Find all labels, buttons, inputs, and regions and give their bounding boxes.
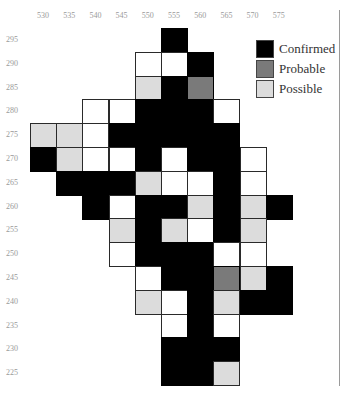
grid-cell-confirmed (213, 123, 240, 148)
grid-cell-confirmed (266, 290, 293, 315)
grid-cell-confirmed (161, 123, 188, 148)
y-axis-label: 295 (6, 35, 26, 44)
grid-cell-possible (135, 76, 162, 101)
grid-cell-confirmed (187, 52, 214, 77)
page-divider-line (339, 10, 340, 386)
x-axis-label: 560 (187, 11, 213, 20)
grid-cell-surveyed (213, 99, 240, 124)
grid-cell-confirmed (135, 242, 162, 267)
legend-label-probable: Probable (279, 60, 325, 78)
grid-cell-possible (135, 290, 162, 315)
grid-cell-surveyed (161, 147, 188, 172)
grid-cell-confirmed (213, 337, 240, 362)
x-axis-label: 550 (135, 11, 161, 20)
grid-cell-confirmed (161, 195, 188, 220)
grid-cell-surveyed (109, 242, 136, 267)
grid-cell-confirmed (187, 314, 214, 339)
grid-cell-surveyed (82, 147, 109, 172)
grid-cell-confirmed (135, 218, 162, 243)
grid-cell-confirmed (161, 76, 188, 101)
grid-cell-possible (240, 218, 267, 243)
grid-cell-possible (56, 147, 83, 172)
grid-cell-confirmed (30, 147, 57, 172)
legend-label-possible: Possible (279, 80, 322, 98)
grid-cell-confirmed (161, 99, 188, 124)
grid-cell-confirmed (56, 171, 83, 196)
grid-cell-surveyed (161, 52, 188, 77)
grid-cell-confirmed (135, 195, 162, 220)
x-axis-label: 545 (109, 11, 135, 20)
grid-cell-probable (187, 76, 214, 101)
grid-cell-possible (213, 361, 240, 386)
grid-cell-confirmed (161, 28, 188, 53)
grid-cell-confirmed (187, 266, 214, 291)
grid-cell-confirmed (266, 266, 293, 291)
grid-cell-surveyed (240, 147, 267, 172)
grid-cell-possible (56, 123, 83, 148)
grid-cell-surveyed (213, 242, 240, 267)
grid-cell-confirmed (213, 218, 240, 243)
grid-cell-surveyed (109, 195, 136, 220)
grid-cell-surveyed (240, 242, 267, 267)
grid-cell-confirmed (187, 242, 214, 267)
grid-cell-surveyed (161, 290, 188, 315)
grid-cell-confirmed (161, 337, 188, 362)
grid-cell-surveyed (187, 171, 214, 196)
grid-cell-confirmed (240, 290, 267, 315)
grid-cell-confirmed (135, 99, 162, 124)
y-axis-label: 265 (6, 178, 26, 187)
grid-cell-possible (109, 218, 136, 243)
x-axis-label: 570 (240, 11, 266, 20)
grid-cell-possible (161, 218, 188, 243)
x-axis-label: 565 (213, 11, 239, 20)
y-axis-label: 285 (6, 83, 26, 92)
y-axis-label: 225 (6, 368, 26, 377)
grid-cell-confirmed (82, 195, 109, 220)
grid-cell-confirmed (135, 147, 162, 172)
grid-cell-surveyed (109, 147, 136, 172)
grid-cell-possible (213, 290, 240, 315)
grid-cell-possible (240, 195, 267, 220)
grid-cell-surveyed (135, 266, 162, 291)
grid-cell-confirmed (161, 361, 188, 386)
legend-swatch-confirmed (256, 40, 274, 58)
breeding-atlas-grid-map: 530535540545550555560565570575 295290285… (0, 0, 344, 396)
grid-cell-confirmed (213, 171, 240, 196)
grid-cell-possible (30, 123, 57, 148)
grid-cell-confirmed (187, 99, 214, 124)
grid-cell-confirmed (213, 147, 240, 172)
grid-cell-surveyed (82, 99, 109, 124)
grid-cell-confirmed (161, 242, 188, 267)
grid-cell-confirmed (82, 171, 109, 196)
grid-cell-confirmed (266, 195, 293, 220)
grid-cell-confirmed (213, 195, 240, 220)
x-axis-label: 530 (30, 11, 56, 20)
y-axis-label: 240 (6, 297, 26, 306)
grid-cell-surveyed (161, 314, 188, 339)
grid-cell-confirmed (187, 147, 214, 172)
grid-cell-surveyed (161, 171, 188, 196)
grid-cell-possible (135, 171, 162, 196)
x-axis-label: 575 (266, 11, 292, 20)
grid-cell-confirmed (135, 123, 162, 148)
y-axis-label: 235 (6, 321, 26, 330)
grid-cell-probable (213, 266, 240, 291)
y-axis-label: 250 (6, 249, 26, 258)
y-axis-label: 280 (6, 106, 26, 115)
x-axis-label: 535 (56, 11, 82, 20)
grid-cell-confirmed (187, 290, 214, 315)
grid-cell-surveyed (109, 99, 136, 124)
grid-cell-surveyed (187, 218, 214, 243)
y-axis-label: 255 (6, 225, 26, 234)
grid-cell-confirmed (109, 171, 136, 196)
grid-cell-confirmed (161, 266, 188, 291)
legend-label-confirmed: Confirmed (279, 40, 335, 58)
x-axis-label: 540 (82, 11, 108, 20)
y-axis-label: 260 (6, 202, 26, 211)
grid-cell-confirmed (187, 361, 214, 386)
grid-cell-surveyed (213, 314, 240, 339)
y-axis-label: 290 (6, 59, 26, 68)
grid-cell-surveyed (240, 171, 267, 196)
legend-swatch-possible (256, 80, 274, 98)
x-axis-label: 555 (161, 11, 187, 20)
